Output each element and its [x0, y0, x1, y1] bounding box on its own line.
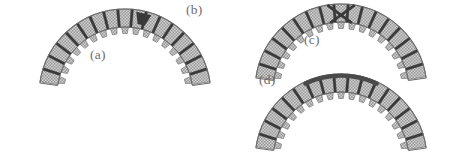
- voussoir-block: [119, 9, 131, 27]
- intrados-tab: [122, 27, 129, 33]
- arch-lower-right-arch: [256, 74, 426, 151]
- mortar-joint: [131, 9, 133, 28]
- arch-layer: [40, 4, 426, 151]
- arch-upper-left-arch: [40, 9, 210, 86]
- figure-label-b: (b): [186, 2, 202, 18]
- intrados-tab: [338, 22, 345, 28]
- arch-upper-right-arch: [256, 4, 426, 81]
- arch-diagram-canvas: [0, 0, 459, 163]
- figure-label-a: (a): [90, 47, 106, 63]
- arch-figure: (a) (b) (c) (d): [0, 0, 459, 163]
- figure-label-c: (c): [304, 32, 320, 48]
- intrados-tab: [338, 92, 345, 98]
- figure-label-d: (d): [259, 72, 275, 88]
- mortar-joint: [118, 9, 120, 28]
